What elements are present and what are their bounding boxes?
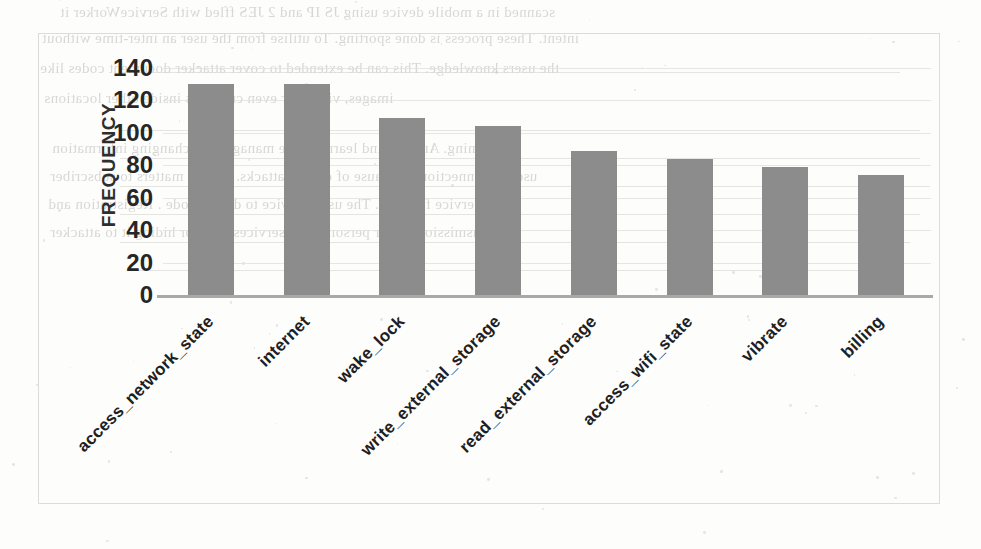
y-axis-tick-label: 120 [113, 88, 153, 112]
bar[interactable] [379, 118, 425, 295]
bar[interactable] [762, 167, 808, 295]
bar[interactable] [667, 159, 713, 295]
y-axis-tick-label: 60 [126, 186, 153, 210]
bleedthrough-text-line: scanned in a mobile device using JS IP a… [60, 4, 555, 21]
scan-speck [542, 508, 544, 510]
scan-speck [60, 0, 61, 1]
bar[interactable] [188, 84, 234, 295]
scan-speck [962, 338, 965, 341]
scan-speck [956, 387, 958, 389]
scan-speck [143, 15, 146, 18]
bar[interactable] [571, 151, 617, 295]
scan-speck [106, 540, 108, 542]
scan-speck [355, 1, 358, 4]
y-axis-tick-label: 80 [126, 153, 153, 177]
y-axis-tick-label: 100 [113, 121, 153, 145]
y-axis-tick-label: 40 [126, 218, 153, 242]
scan-speck [958, 41, 960, 43]
y-axis-tick-label: 20 [126, 251, 153, 275]
bar[interactable] [284, 84, 330, 295]
scan-speck [589, 19, 590, 20]
bar-chart: FREQUENCY 140120100806040200 access_netw… [38, 33, 940, 504]
scan-speck [107, 540, 110, 543]
y-axis-tick-label: 0 [140, 283, 153, 307]
bar[interactable] [475, 126, 521, 295]
y-axis-tick-label: 140 [113, 56, 153, 80]
plot-area: FREQUENCY 140120100806040200 access_netw… [39, 34, 939, 503]
scan-speck [12, 463, 15, 466]
bar[interactable] [858, 175, 904, 295]
bar-slot [833, 34, 929, 503]
scan-speck [703, 531, 706, 534]
